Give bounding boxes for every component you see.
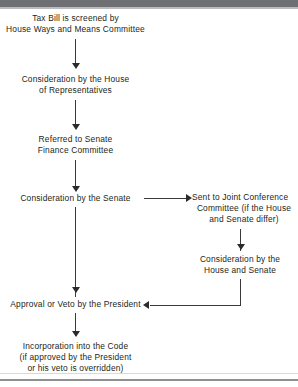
scan-top-bar [0,0,298,7]
node-line: Consideration by the [188,254,292,265]
connector-line-n4-n5 [144,198,187,199]
node-line: and Senate differ) [192,214,296,225]
arrow-down-icon-n3-n4 [72,186,80,192]
arrow-down-icon-n5-n6 [237,244,245,250]
flowchart-canvas: Tax Bill is screened by House Ways and M… [0,0,298,387]
node-line: Finance Committee [0,145,151,156]
node-tax-bill-screened: Tax Bill is screened by House Ways and M… [0,13,151,35]
node-line: (if approved by the President [0,352,151,363]
node-line: Approval or Veto by the President [0,299,151,310]
node-line: Tax Bill is screened by [0,13,151,24]
connector-line-n2-n3 [75,100,76,127]
arrow-down-icon-n2-n3 [72,124,80,130]
node-line: House and Senate [188,265,292,276]
connector-line-n3-n4 [75,160,76,189]
arrow-down-icon-n7-n8 [72,331,80,337]
node-line: of Representatives [0,85,151,96]
node-line: Consideration by the Senate [0,193,151,204]
node-line: Referred to Senate [0,134,151,145]
node-incorporation-into-code: Incorporation into the Code (if approved… [0,341,151,375]
node-approval-or-veto: Approval or Veto by the President [0,299,151,310]
scan-bottom-hairline [0,373,298,374]
node-joint-conference-committee: Sent to Joint Conference Committee (if t… [192,192,296,226]
arrow-down-icon-n1-n2 [72,63,80,69]
node-line: Consideration by the House [0,74,151,85]
arrow-down-icon-n4-n7 [72,287,80,293]
connector-line-n1-n2 [75,39,76,66]
node-referred-senate-finance: Referred to Senate Finance Committee [0,134,151,156]
connector-line-n6-n7-vertical [240,279,241,306]
scan-top-bar-shade [0,7,298,9]
node-line: Incorporation into the Code [0,341,151,352]
node-consideration-house-and-senate: Consideration by the House and Senate [188,254,292,276]
connector-line-n4-n7 [75,207,76,297]
node-line: Committee (if the House [192,203,296,214]
node-consideration-house: Consideration by the House of Representa… [0,74,151,96]
node-consideration-senate: Consideration by the Senate [0,193,151,204]
connector-line-n6-n7-horizontal [150,305,241,306]
scan-bottom-bar [0,379,298,381]
node-line: House Ways and Means Committee [0,24,151,35]
node-line: Sent to Joint Conference [192,192,296,203]
